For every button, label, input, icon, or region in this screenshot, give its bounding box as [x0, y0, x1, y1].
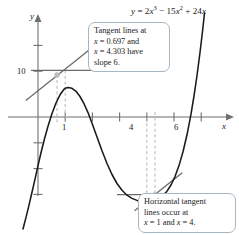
y-axis-label: y: [30, 11, 34, 21]
callout-tangent-slope-line4: slope 6.: [94, 58, 165, 69]
callout-tangent-slope-line2: x = 0.697 and: [94, 37, 165, 48]
x-tick-label-6: 6: [174, 122, 178, 132]
equation-term2-coeff: 15: [167, 6, 176, 16]
callout-tangent-slope-line3: x = 4.303 have: [94, 47, 165, 58]
tangent-point-markers: [54, 72, 157, 197]
callout-tangent-slope-line3-rest: = 4.303 have: [98, 47, 143, 56]
dashed-guide-lines: [57, 70, 155, 195]
x-tick-label-4: 4: [129, 122, 133, 132]
calculus-tangent-line-figure: y = 2x3 − 15x2 + 24x y x 10 1 4 6 Tangen…: [0, 0, 239, 235]
equation-term3-var: x: [202, 6, 206, 16]
y-tick-label-10: 10: [17, 66, 26, 76]
equation-plus-term3: + 24: [183, 6, 202, 16]
equation-eq: =: [135, 6, 145, 16]
callout-horizontal-tangent-line3: x = 1 and x = 4.: [144, 218, 231, 229]
x-axis-label: x: [222, 121, 226, 131]
callout-tangent-slope: Tangent lines at x = 0.697 and x = 4.303…: [88, 22, 170, 72]
callout-horizontal-tangent-line1: Horizontal tangent: [144, 197, 231, 208]
x-axis: [8, 113, 234, 120]
x-tick-label-1: 1: [62, 122, 66, 132]
callout-tangent-slope-line2-rest: = 0.697 and: [98, 37, 140, 46]
callout-horizontal-tangent-line3-mid: = 1 and: [148, 218, 177, 227]
equation-label: y = 2x3 − 15x2 + 24x: [131, 6, 206, 16]
callout-horizontal-tangent: Horizontal tangent lines occur at x = 1 …: [138, 193, 236, 233]
callout-horizontal-tangent-line3-end: = 4.: [180, 218, 195, 227]
equation-minus: −: [157, 6, 167, 16]
tangent-point-marker-upper: [54, 72, 59, 77]
callout-tangent-slope-line1: Tangent lines at: [94, 26, 165, 37]
callout-horizontal-tangent-line2: lines occur at: [144, 208, 231, 219]
